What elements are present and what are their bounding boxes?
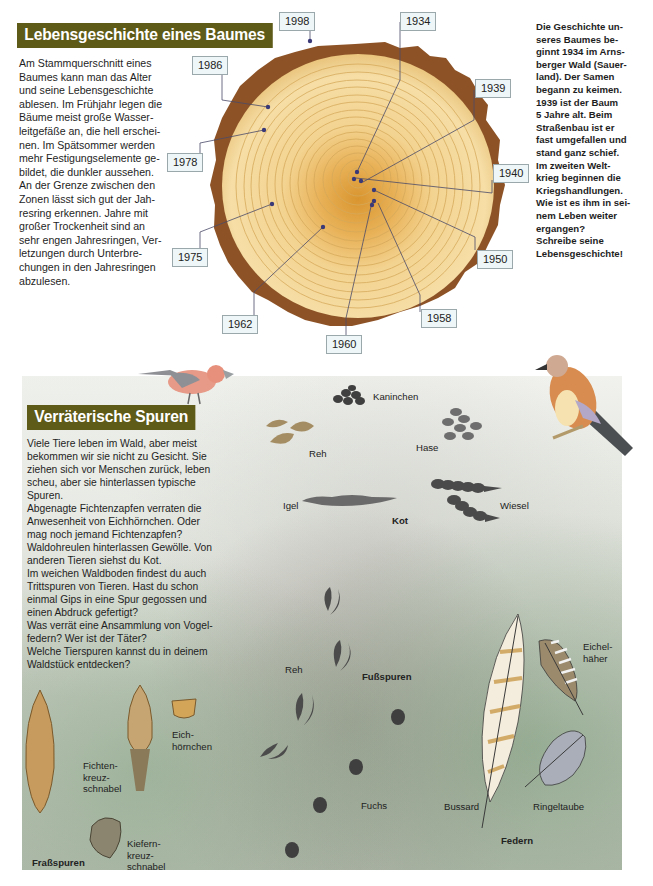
label-line: kreuz- <box>83 772 121 784</box>
heading-fussspuren: Fußspuren <box>362 671 412 683</box>
year-label-1986: 1986 <box>192 56 228 75</box>
label-reh-fussspur: Reh <box>285 664 303 676</box>
feather-bussard-icon <box>478 612 530 832</box>
droppings-kaninchen-icon <box>330 385 370 410</box>
text-line: federn? Wer ist der Täter? <box>27 632 213 645</box>
year-label-1939: 1939 <box>475 79 511 98</box>
label-line: schnabel <box>127 861 165 873</box>
droppings-hase-icon <box>442 406 492 446</box>
label-kiefernkreuzschnabel: Kiefern- kreuz- schnabel <box>127 838 165 873</box>
year-label-1940: 1940 <box>493 164 529 183</box>
label-fuchs: Fuchs <box>361 800 387 812</box>
label-line: Fichten- <box>83 760 121 772</box>
pinecone-kiefernkreuzschnabel-icon <box>86 812 126 862</box>
text-line: bekommen wir sie nicht zu Gesicht. Sie <box>27 450 213 463</box>
text-line: Waldohreulen hinterlassen Gewölle. Von <box>27 541 213 554</box>
feather-eichelhaeher-icon <box>535 635 585 715</box>
droppings-wiesel-icon <box>430 478 510 526</box>
pinecone-fichtenzapfen-icon <box>20 688 60 818</box>
year-label-1960: 1960 <box>326 335 362 354</box>
label-eichhoernchen: Eich- hörnchen <box>172 729 212 752</box>
text-line: Waldstück entdecken? <box>27 658 213 671</box>
label-line: häher <box>583 653 612 665</box>
year-label-1934: 1934 <box>400 12 436 31</box>
section-title-verraeterische-spuren: Verräterische Spuren <box>27 405 195 430</box>
label-wiesel: Wiesel <box>500 500 529 512</box>
label-line: Kiefern- <box>127 838 165 850</box>
year-label-1962: 1962 <box>222 315 258 334</box>
feather-ringeltaube-icon <box>523 727 589 793</box>
jay-bird-illustration <box>533 348 643 460</box>
text-line: Trittspuren von Tieren. Hast du schon <box>27 580 213 593</box>
droppings-igel-icon <box>302 493 398 509</box>
label-hase: Hase <box>416 442 438 454</box>
label-line: Eich- <box>172 729 212 741</box>
text-line: ziehen sich vor Menschen zurück, leben <box>27 463 213 476</box>
year-label-1998: 1998 <box>279 12 315 31</box>
label-eichelhaeher: Eichel- häher <box>583 641 612 664</box>
year-label-1978: 1978 <box>167 153 203 172</box>
text-line: einen Abdruck gefertigt? <box>27 606 213 619</box>
text-line: scheu, aber sie hinterlassen typische <box>27 476 213 489</box>
label-line: kreuz- <box>127 850 165 862</box>
text-line: Im weichen Waldboden findest du auch <box>27 567 213 580</box>
text-line: einmal Gips in eine Spur gegossen und <box>27 593 213 606</box>
footprints-fuchs-icon <box>280 705 420 865</box>
label-line: schnabel <box>83 783 121 795</box>
label-line: hörnchen <box>172 741 212 753</box>
text-line: Was verrät eine Ansammlung von Vogel- <box>27 619 213 632</box>
label-igel: Igel <box>283 500 298 512</box>
text-line: Anwesenheit von Eichhörnchen. Oder <box>27 515 213 528</box>
text-line: Viele Tiere leben im Wald, aber meist <box>27 437 213 450</box>
text-line: anderen Tieren siehst du Kot. <box>27 554 213 567</box>
label-ringeltaube: Ringeltaube <box>533 801 584 813</box>
label-fichtenkreuzschnabel: Fichten- kreuz- schnabel <box>83 760 121 795</box>
label-reh-kot: Reh <box>309 448 327 460</box>
text-line: mag noch jemand Fichtenzapfen? <box>27 528 213 541</box>
nut-eichhoernchen-icon <box>170 697 198 721</box>
droppings-reh-icon <box>264 416 320 452</box>
heading-kot: Kot <box>392 515 408 527</box>
pinecone-fichtenkreuzschnabel-icon <box>122 683 158 793</box>
tree-cross-section-illustration <box>0 0 653 360</box>
text-line: Spuren. <box>27 489 213 502</box>
heading-federn: Federn <box>501 835 533 847</box>
year-label-1950: 1950 <box>477 250 513 269</box>
section2-body-text: Viele Tiere leben im Wald, aber meist be… <box>27 437 213 671</box>
label-kaninchen: Kaninchen <box>373 391 418 403</box>
text-line: Welche Tierspuren kannst du in deinem <box>27 645 213 658</box>
crossbill-bird-illustration <box>130 360 240 410</box>
year-label-1975: 1975 <box>172 248 208 267</box>
year-label-1958: 1958 <box>421 309 457 328</box>
label-line: Eichel- <box>583 641 612 653</box>
heading-frassspuren: Fraßspuren <box>32 857 85 869</box>
label-bussard: Bussard <box>444 801 479 813</box>
text-line: Abgenagte Fichtenzapfen verraten die <box>27 502 213 515</box>
